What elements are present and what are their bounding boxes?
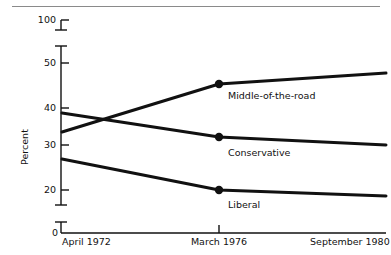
series-label-middle-of-the-road: Middle-of-the-road xyxy=(228,90,315,101)
x-axis: April 1972 March 1976 September 1980 xyxy=(61,225,390,247)
y-tick-label-30: 30 xyxy=(44,139,56,150)
series-marker-liberal xyxy=(215,186,223,194)
series-conservative: Conservative xyxy=(62,113,386,158)
series-liberal: Liberal xyxy=(62,159,386,210)
x-tick-label-march-1976: March 1976 xyxy=(191,236,247,247)
y-tick-label-20: 20 xyxy=(44,184,56,195)
series-label-liberal: Liberal xyxy=(228,199,260,210)
x-tick-label-september-1980: September 1980 xyxy=(310,236,390,247)
y-axis: 100 50 40 30 20 0 Percent xyxy=(19,14,69,238)
series-label-conservative: Conservative xyxy=(228,147,291,158)
y-tick-label-100: 100 xyxy=(38,14,56,25)
line-chart: 100 50 40 30 20 0 Percent April 1972 Mar… xyxy=(0,0,391,255)
series-marker-conservative xyxy=(215,133,223,141)
y-tick-label-0: 0 xyxy=(52,227,58,238)
y-axis-title: Percent xyxy=(19,129,30,165)
series-line-liberal xyxy=(62,159,386,196)
x-tick-label-april-1972: April 1972 xyxy=(62,236,111,247)
y-tick-label-50: 50 xyxy=(44,57,56,68)
series-marker-middle-of-the-road xyxy=(215,80,223,88)
series-line-middle-of-the-road xyxy=(62,73,386,132)
chart-page: 100 50 40 30 20 0 Percent April 1972 Mar… xyxy=(0,0,391,255)
series-middle-of-the-road: Middle-of-the-road xyxy=(62,73,386,132)
y-tick-label-40: 40 xyxy=(44,102,56,113)
